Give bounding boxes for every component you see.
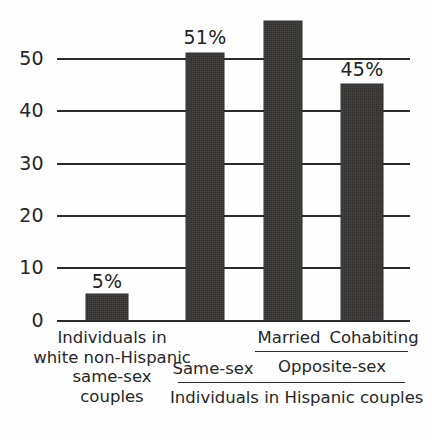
group-label-opposite-sex: Opposite-sex [258, 357, 406, 376]
category-label-married: Married [252, 328, 326, 347]
bar-hispanic-same-sex [186, 53, 224, 320]
bar-white-non-hispanic-same-sex [86, 294, 128, 320]
group-label-hispanic-couples: Individuals in Hispanic couples [170, 388, 414, 407]
left-label-line-1: Individuals in [24, 328, 200, 348]
plot-area: 5% 51% 45% [57, 14, 410, 320]
bar-hispanic-opposite-married [264, 21, 302, 320]
y-tick-label-30: 30 [19, 152, 44, 174]
bar-chart: 50 40 30 20 10 0 5% 51% 45% Individuals … [0, 0, 432, 440]
x-axis-labels: Individuals in white non-Hispanic same-s… [0, 320, 432, 440]
bar-hispanic-opposite-cohabiting [341, 84, 383, 320]
bar-value-label-1: 5% [76, 270, 138, 292]
y-tick-label-20: 20 [19, 204, 44, 226]
group-rule-opposite-sex [255, 351, 408, 352]
y-tick-label-50: 50 [19, 47, 44, 69]
category-label-cohabiting: Cohabiting [328, 328, 420, 347]
group-rule-hispanic [178, 382, 405, 383]
category-label-same-sex: Same-sex [170, 359, 256, 378]
bar-value-label-4: 45% [321, 58, 403, 80]
y-tick-label-10: 10 [19, 256, 44, 278]
bar-value-label-2: 51% [174, 26, 236, 48]
y-tick-label-40: 40 [19, 99, 44, 121]
